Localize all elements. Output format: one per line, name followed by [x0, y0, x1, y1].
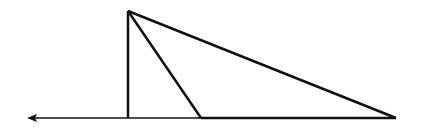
diagram-svg — [0, 0, 425, 130]
geometry-diagram — [0, 0, 425, 130]
background — [0, 0, 425, 130]
